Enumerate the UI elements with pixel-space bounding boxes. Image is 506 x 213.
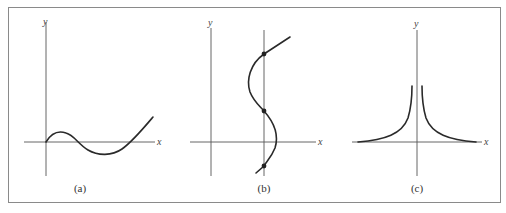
x-axis-label: x [317,136,323,147]
figure-canvas: y x (a) y x (b) y x (c) [0,0,506,213]
curve-a [46,117,153,154]
curve-c-right [422,86,476,142]
x-axis-label: x [483,136,489,147]
caption-a: (a) [74,182,87,195]
intersection-point [262,52,267,57]
x-axis-label: x [156,136,162,147]
y-axis-label: y [207,17,213,28]
curve-c-left [358,86,412,142]
y-axis-label: y [42,16,48,27]
intersection-point [262,164,267,169]
panel-b: y x (b) [190,17,323,195]
caption-b: (b) [258,182,271,195]
curve-b [249,37,290,173]
panel-a: y x (a) [24,16,162,195]
intersection-point [262,109,267,114]
panel-c: y x (c) [352,18,489,195]
caption-c: (c) [411,182,424,195]
y-axis-label: y [413,18,419,29]
